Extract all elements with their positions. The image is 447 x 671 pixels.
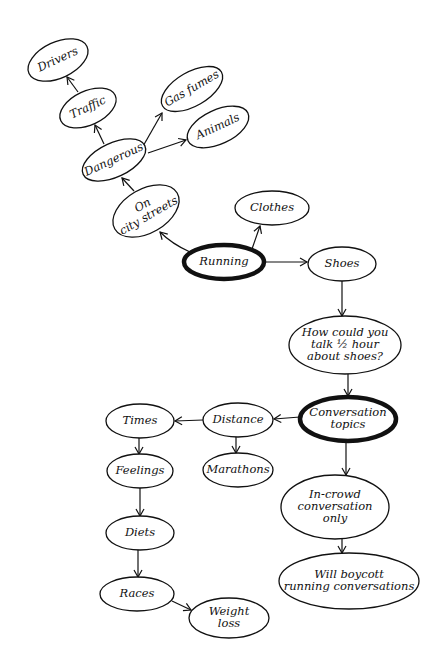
node-how-could-you: How could youtalk ½ hourabout shoes? xyxy=(289,316,401,374)
edge-races-to-weight-loss xyxy=(172,601,191,610)
edge-running-to-clothes xyxy=(252,226,260,249)
node-label: Diets xyxy=(124,525,155,539)
mind-map-nodes: RunningOncity streetsDangerousTrafficDri… xyxy=(21,30,419,638)
edge-dangerous-to-gas-fumes xyxy=(142,113,162,148)
node-label: Times xyxy=(123,413,158,427)
node-label: loss xyxy=(218,616,241,630)
node-times: Times xyxy=(106,404,174,438)
node-marathons: Marathons xyxy=(203,453,273,487)
edge-distance-to-times xyxy=(175,420,203,421)
node-running: Running xyxy=(184,245,264,279)
edge-dangerous-to-traffic xyxy=(95,125,104,144)
node-label: Shoes xyxy=(325,256,360,270)
node-label: Running xyxy=(198,254,248,268)
node-feelings: Feelings xyxy=(107,454,173,488)
edge-on-city-streets-to-dangerous xyxy=(122,178,134,191)
node-label: topics xyxy=(331,417,366,431)
node-on-city-streets: Oncity streets xyxy=(104,174,188,248)
node-shoes: Shoes xyxy=(308,247,376,281)
node-distance: Distance xyxy=(203,403,273,437)
node-label: Distance xyxy=(212,412,264,426)
node-will-boycott: Will boycottrunning conversations xyxy=(279,553,419,609)
node-label: Clothes xyxy=(250,200,294,214)
node-label: running conversations xyxy=(284,579,415,593)
node-traffic: Traffic xyxy=(54,80,123,136)
node-conversation-topics: Conversationtopics xyxy=(300,397,396,441)
node-label: Races xyxy=(119,586,155,600)
node-label: about shoes? xyxy=(307,349,384,363)
node-weight-loss: Weightloss xyxy=(189,598,269,638)
node-clothes: Clothes xyxy=(235,191,309,225)
node-in-crowd: In-crowdconversationonly xyxy=(281,475,389,539)
node-races: Races xyxy=(100,577,174,611)
node-drivers: Drivers xyxy=(21,30,94,90)
node-label: Marathons xyxy=(205,462,269,476)
node-dangerous: Dangerous xyxy=(76,130,152,190)
node-label: only xyxy=(323,511,348,525)
edge-dangerous-to-animals xyxy=(148,140,186,153)
edge-conversation-topics-to-distance xyxy=(274,417,300,419)
mind-map-canvas: RunningOncity streetsDangerousTrafficDri… xyxy=(0,0,447,671)
node-diets: Diets xyxy=(106,516,174,550)
edge-traffic-to-drivers xyxy=(67,77,78,92)
edge-running-to-on-city-streets xyxy=(160,232,190,252)
node-label: Feelings xyxy=(115,463,165,477)
